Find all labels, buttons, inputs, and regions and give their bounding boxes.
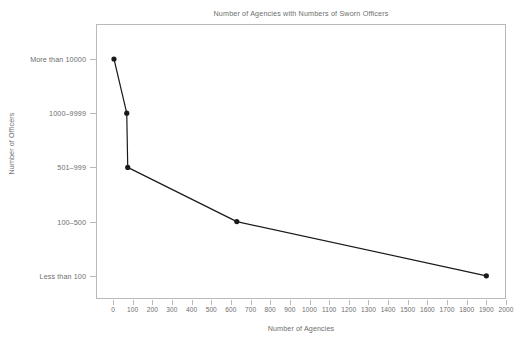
- x-tick-mark: [270, 300, 271, 305]
- x-tick-label: 0: [111, 306, 115, 313]
- x-tick-label: 700: [245, 306, 256, 313]
- x-tick-label: 600: [225, 306, 236, 313]
- x-tick-label: 1200: [341, 306, 356, 313]
- chart-figure: Number of Agencies with Numbers of Sworn…: [0, 0, 520, 351]
- x-tick-mark: [172, 300, 173, 305]
- x-tick-mark: [388, 300, 389, 305]
- x-tick-mark: [329, 300, 330, 305]
- x-tick-mark: [310, 300, 311, 305]
- x-tick-mark: [133, 300, 134, 305]
- x-tick-label: 1800: [459, 306, 474, 313]
- x-tick-mark: [231, 300, 232, 305]
- y-tick-mark: [90, 276, 96, 277]
- x-tick-label: 1300: [361, 306, 376, 313]
- x-tick-label: 400: [186, 306, 197, 313]
- x-tick-label: 800: [265, 306, 276, 313]
- x-tick-label: 1000: [302, 306, 317, 313]
- data-point-marker: [484, 273, 489, 278]
- x-tick-mark: [211, 300, 212, 305]
- data-point-marker: [111, 56, 116, 61]
- x-tick-label: 1600: [420, 306, 435, 313]
- y-tick-mark: [90, 113, 96, 114]
- x-tick-mark: [368, 300, 369, 305]
- x-tick-label: 500: [206, 306, 217, 313]
- y-tick-mark: [90, 59, 96, 60]
- x-tick-label: 100: [127, 306, 138, 313]
- x-tick-mark: [408, 300, 409, 305]
- x-tick-label: 200: [147, 306, 158, 313]
- x-tick-label: 1400: [381, 306, 396, 313]
- y-tick-mark: [90, 222, 96, 223]
- data-series-layer: [0, 0, 520, 351]
- x-tick-label: 1900: [479, 306, 494, 313]
- x-tick-mark: [506, 300, 507, 305]
- x-tick-mark: [113, 300, 114, 305]
- data-point-marker: [234, 219, 239, 224]
- x-tick-mark: [486, 300, 487, 305]
- x-tick-label: 300: [166, 306, 177, 313]
- x-tick-label: 1700: [440, 306, 455, 313]
- data-point-marker: [125, 165, 130, 170]
- x-tick-mark: [349, 300, 350, 305]
- series-line: [114, 59, 486, 276]
- series-markers: [111, 56, 489, 278]
- x-tick-label: 1500: [400, 306, 415, 313]
- x-tick-mark: [427, 300, 428, 305]
- x-tick-label: 2000: [499, 306, 514, 313]
- x-tick-label: 1100: [322, 306, 336, 313]
- data-point-marker: [124, 111, 129, 116]
- x-tick-mark: [152, 300, 153, 305]
- x-tick-mark: [251, 300, 252, 305]
- y-tick-mark: [90, 167, 96, 168]
- x-tick-mark: [447, 300, 448, 305]
- x-tick-mark: [467, 300, 468, 305]
- x-tick-mark: [290, 300, 291, 305]
- x-tick-label: 900: [284, 306, 295, 313]
- x-tick-mark: [192, 300, 193, 305]
